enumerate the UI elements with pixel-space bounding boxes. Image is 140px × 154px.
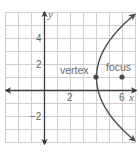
focus-point xyxy=(119,74,124,79)
x-tick-6: 6 xyxy=(119,92,125,103)
vertex-point xyxy=(93,74,98,79)
x-axis-label: x xyxy=(128,91,134,103)
parabola-graph: vertex focus 4 2 −2 2 6 x y xyxy=(0,0,140,154)
y-tick-2: 2 xyxy=(36,59,42,70)
focus-label: focus xyxy=(106,61,131,73)
y-tick-4: 4 xyxy=(36,33,42,44)
y-tick-neg2: −2 xyxy=(30,111,42,122)
vertex-label: vertex xyxy=(60,64,89,76)
y-axis-label: y xyxy=(47,8,53,20)
x-tick-2: 2 xyxy=(67,92,73,103)
